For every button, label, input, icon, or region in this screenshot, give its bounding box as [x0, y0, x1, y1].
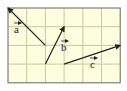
vector-label-b: b: [61, 41, 67, 53]
vector-grid-diagram: abc: [0, 0, 127, 91]
vector-label-c: c: [90, 58, 95, 70]
vector-label-a: a: [14, 23, 19, 35]
